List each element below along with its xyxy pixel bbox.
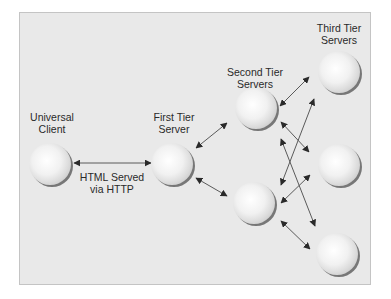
node-third-tier-top — [318, 51, 362, 95]
edge-first-second-bottom — [196, 178, 227, 196]
label-line: via HTTP — [80, 183, 144, 195]
node-client — [29, 143, 73, 187]
node-third-tier-bottom — [316, 233, 360, 277]
label-line: Servers — [227, 78, 283, 90]
edge-second-bottom-third-top — [281, 99, 314, 185]
edge-second-bottom-third-middle — [281, 175, 310, 203]
sphere-icon — [318, 51, 360, 93]
label-line: Client — [30, 123, 74, 135]
edge-second-bottom-third-bottom — [281, 221, 310, 249]
label-line: Third Tier — [317, 22, 361, 34]
label-line: Universal — [30, 111, 74, 123]
sphere-icon — [151, 143, 193, 185]
edge-second-top-third-top — [280, 77, 309, 106]
label-second-tier-servers: Second Tier Servers — [227, 66, 283, 90]
sphere-icon — [318, 144, 360, 186]
label-third-tier-servers: Third Tier Servers — [317, 22, 361, 46]
label-line: Second Tier — [227, 66, 283, 78]
sphere-icon — [316, 233, 358, 275]
diagram-canvas: Universal Client First Tier Server Secon… — [0, 0, 391, 299]
node-third-tier-middle — [318, 144, 362, 188]
sphere-icon — [233, 182, 275, 224]
label-line: HTML Served — [80, 171, 144, 183]
label-line: Servers — [317, 34, 361, 46]
sphere-icon — [29, 143, 71, 185]
node-second-tier-bottom — [233, 182, 277, 226]
node-first-tier — [151, 143, 195, 187]
edge-first-second-top — [196, 123, 227, 148]
label-universal-client: Universal Client — [30, 111, 74, 135]
sphere-icon — [235, 87, 277, 129]
label-line: Server — [154, 123, 195, 135]
node-second-tier-top — [235, 87, 279, 131]
label-line: First Tier — [154, 111, 195, 123]
edge-second-top-third-bottom — [281, 139, 315, 226]
label-html-served-via-http: HTML Served via HTTP — [80, 171, 144, 195]
label-first-tier-server: First Tier Server — [154, 111, 195, 135]
